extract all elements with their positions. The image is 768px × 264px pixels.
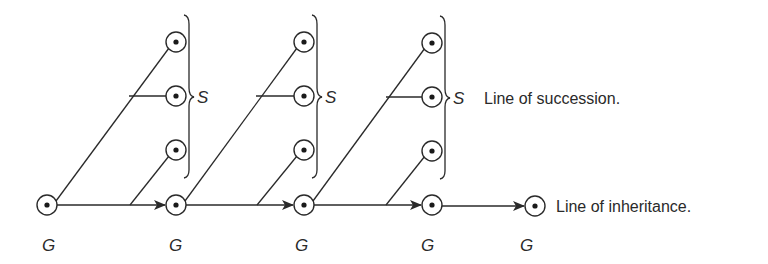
node-succession-3a bbox=[294, 32, 314, 52]
node-succession-2c bbox=[166, 140, 186, 160]
node-succession-2a bbox=[166, 32, 186, 52]
node-generation-2 bbox=[166, 195, 186, 215]
inheritance-line bbox=[57, 205, 524, 206]
succession-label-2: S bbox=[325, 88, 337, 107]
generation-label-4: G bbox=[421, 236, 434, 255]
node-succession-3b bbox=[294, 86, 314, 106]
succession-inheritance-diagram: S S S Line of succession. Line of inheri… bbox=[0, 0, 768, 264]
node-generation-4 bbox=[422, 195, 442, 215]
generation-label-5: G bbox=[520, 236, 533, 255]
succession-label-1: S bbox=[197, 88, 209, 107]
generation-label-1: G bbox=[42, 236, 55, 255]
succession-branches-2 bbox=[185, 48, 297, 205]
node-generation-1 bbox=[37, 195, 57, 215]
caption-line-of-inheritance: Line of inheritance. bbox=[556, 198, 691, 215]
generation-label-2: G bbox=[169, 236, 182, 255]
node-succession-3c bbox=[294, 140, 314, 160]
succession-branches-3 bbox=[313, 48, 425, 205]
generation-label-3: G bbox=[295, 236, 308, 255]
succession-label-3: S bbox=[453, 89, 465, 108]
node-succession-4c bbox=[422, 141, 442, 161]
node-generation-5 bbox=[525, 196, 545, 216]
caption-line-of-succession: Line of succession. bbox=[484, 90, 620, 107]
succession-branches-1 bbox=[56, 48, 169, 205]
node-succession-4b bbox=[422, 87, 442, 107]
node-succession-4a bbox=[422, 33, 442, 53]
node-succession-2b bbox=[166, 86, 186, 106]
node-generation-3 bbox=[294, 195, 314, 215]
